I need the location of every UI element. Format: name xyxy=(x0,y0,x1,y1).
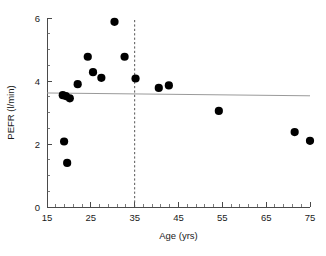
data-point xyxy=(291,128,299,136)
x-axis-title: Age (yrs) xyxy=(159,230,198,241)
x-axis-tick-label: 45 xyxy=(173,212,184,223)
data-point xyxy=(60,137,68,145)
data-point xyxy=(306,137,314,145)
scatter-plot-figure: 152535455565750246Age (yrs)PEFR (l/min) xyxy=(0,0,326,256)
data-point xyxy=(120,53,128,61)
y-axis-title: PEFR (l/min) xyxy=(5,85,16,139)
data-point xyxy=(84,53,92,61)
data-point xyxy=(97,74,105,82)
x-axis-tick-label: 25 xyxy=(86,212,97,223)
data-point xyxy=(165,81,173,89)
y-axis-tick-label: 2 xyxy=(35,139,40,150)
plot-canvas: 152535455565750246Age (yrs)PEFR (l/min) xyxy=(0,0,326,256)
data-point xyxy=(155,84,163,92)
data-point xyxy=(66,94,74,102)
x-axis-tick-label: 35 xyxy=(129,212,140,223)
y-axis-tick-label: 0 xyxy=(35,202,40,213)
data-point xyxy=(74,80,82,88)
x-axis-tick-label: 75 xyxy=(305,212,316,223)
regression-line xyxy=(47,93,310,96)
y-axis-tick-label: 4 xyxy=(35,76,40,87)
data-point xyxy=(215,107,223,115)
x-axis-tick-label: 65 xyxy=(261,212,272,223)
data-point xyxy=(89,68,97,76)
data-point xyxy=(63,159,71,167)
y-axis-tick-label: 6 xyxy=(35,13,40,24)
data-point xyxy=(110,18,118,26)
x-axis-tick-label: 15 xyxy=(42,212,53,223)
x-axis-tick-label: 55 xyxy=(217,212,228,223)
data-point xyxy=(131,74,139,82)
